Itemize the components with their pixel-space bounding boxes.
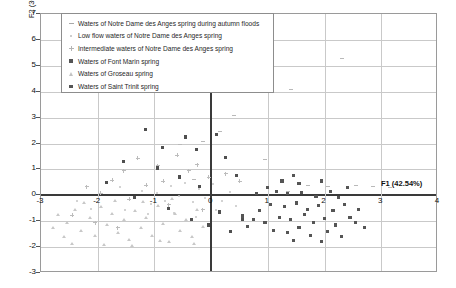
data-point: [79, 229, 83, 232]
data-point: [173, 212, 177, 215]
data-point: [232, 115, 236, 116]
data-point: [73, 208, 77, 211]
data-point: [312, 221, 315, 224]
data-point: [218, 210, 221, 213]
legend-item[interactable]: Waters of Saint Trinit spring: [66, 80, 273, 93]
legend-item-label: Intermediate waters of Notre Dame des An…: [78, 45, 233, 52]
scatter-chart: F2 (30.91%) -3-2-101234567 -3-2-101234 F…: [0, 0, 456, 288]
legend-item-label: Waters of Notre Dame des Anges spring du…: [78, 20, 259, 27]
data-point: [297, 226, 300, 229]
data-point: [119, 186, 121, 188]
data-point: [90, 208, 92, 210]
data-point: [278, 216, 281, 219]
x-axis-title: F1 (42.54%): [381, 179, 422, 188]
data-point: [192, 242, 196, 245]
x-tick-label: -2: [87, 196, 107, 205]
legend-item-label: Waters of Font Marin spring: [78, 58, 159, 65]
data-point: [297, 182, 300, 185]
data-point: [178, 195, 180, 197]
data-point: [184, 218, 188, 221]
data-point: [255, 192, 258, 195]
data-point: [150, 234, 154, 237]
legend-item[interactable]: Intermediate waters of Notre Dame des An…: [66, 42, 273, 55]
legend-item[interactable]: Low flow waters of Notre Dame des Anges …: [66, 30, 273, 43]
data-point: [289, 89, 293, 90]
data-point: [65, 221, 69, 224]
data-point: [340, 235, 343, 238]
data-point: [323, 217, 326, 220]
y-tick-label: -2: [0, 241, 36, 250]
data-point: [252, 218, 255, 221]
data-point: [93, 221, 97, 225]
data-point: [158, 239, 162, 242]
data-point: [127, 197, 131, 201]
data-point: [340, 58, 344, 59]
data-point: [161, 146, 164, 149]
y-tick-label: 6: [0, 34, 36, 43]
data-point: [371, 186, 375, 187]
data-point: [303, 213, 306, 216]
data-point: [170, 185, 172, 187]
data-point: [102, 243, 106, 246]
data-point: [354, 221, 357, 224]
data-point: [82, 201, 86, 204]
data-point: [241, 214, 244, 217]
data-point: [363, 226, 366, 229]
data-point: [116, 226, 120, 230]
legend-item[interactable]: Waters of Groseau spring: [66, 67, 273, 80]
x-tick-label: 3: [370, 196, 390, 205]
data-point: [218, 131, 222, 132]
data-point: [133, 209, 137, 212]
legend: Waters of Notre Dame des Anges spring du…: [61, 13, 274, 93]
data-point: [354, 185, 358, 186]
data-point: [192, 179, 196, 180]
data-point: [229, 191, 231, 193]
data-point: [116, 231, 120, 234]
data-point: [215, 133, 218, 136]
x-tick-label: 2: [314, 196, 334, 205]
data-point: [156, 166, 159, 169]
y-tick-label: 1: [0, 163, 36, 172]
data-point: [289, 218, 292, 221]
y-tick-label: -3: [0, 267, 36, 276]
data-point: [357, 208, 360, 211]
data-point: [178, 229, 182, 232]
data-point: [190, 235, 194, 238]
data-point: [110, 212, 114, 215]
x-tick-label: 0: [200, 196, 220, 205]
data-point: [198, 188, 200, 190]
data-point: [122, 169, 126, 173]
data-point: [178, 144, 182, 145]
legend-item-label: Waters of Saint Trinit spring: [78, 83, 159, 90]
legend-item[interactable]: Waters of Font Marin spring: [66, 55, 273, 68]
data-point: [286, 192, 289, 195]
data-point: [62, 235, 66, 238]
data-point: [343, 203, 346, 206]
data-point: [331, 209, 334, 212]
data-point: [329, 190, 332, 193]
data-point: [99, 205, 103, 208]
data-point: [139, 226, 143, 229]
data-point: [192, 201, 194, 203]
data-point: [105, 223, 109, 226]
data-point: [241, 218, 244, 221]
plus-marker-icon: [66, 46, 76, 51]
data-point: [292, 174, 295, 177]
data-point: [170, 197, 174, 200]
data-point: [207, 223, 210, 226]
data-point: [295, 201, 298, 204]
data-point: [263, 159, 267, 160]
y-tick-label: -1: [0, 215, 36, 224]
data-point: [215, 209, 217, 211]
legend-item-label: Waters of Groseau spring: [78, 70, 153, 77]
data-point: [133, 196, 136, 199]
data-point: [136, 156, 140, 160]
triangle-marker-icon: [66, 72, 76, 76]
data-point: [184, 182, 186, 184]
data-point: [201, 208, 205, 212]
data-point: [127, 238, 131, 241]
legend-item[interactable]: Waters of Notre Dame des Anges spring du…: [66, 17, 273, 30]
data-point: [198, 185, 201, 188]
data-point: [201, 141, 205, 142]
data-point: [275, 190, 278, 193]
